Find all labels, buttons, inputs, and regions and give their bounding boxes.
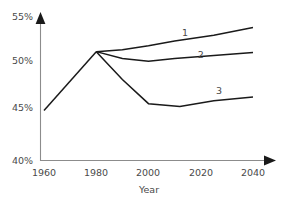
series-label-3: 3 xyxy=(216,85,222,96)
y-axis-arrow-icon xyxy=(36,12,46,24)
shared-history-line xyxy=(44,52,96,111)
ytick-label-50: 50% xyxy=(12,55,33,66)
xtick-label-2040: 2040 xyxy=(241,167,265,178)
ytick-label-55: 55% xyxy=(12,11,33,22)
chart-canvas: 55% 50% 45% 40% 1960 1980 2000 2020 2040… xyxy=(0,0,290,198)
xtick-label-2000: 2000 xyxy=(136,167,160,178)
xtick-label-1980: 1980 xyxy=(84,167,108,178)
series-label-2: 2 xyxy=(198,49,204,60)
x-axis-title: Year xyxy=(138,184,159,195)
x-axis-arrow-icon xyxy=(264,155,276,165)
xtick-label-1960: 1960 xyxy=(32,167,56,178)
series-line-3 xyxy=(96,52,253,107)
ytick-label-45: 45% xyxy=(12,102,33,113)
ytick-label-40: 40% xyxy=(12,155,33,166)
series-line-2 xyxy=(96,52,253,62)
series-line-1 xyxy=(96,28,253,52)
xtick-label-2020: 2020 xyxy=(189,167,213,178)
line-chart: 55% 50% 45% 40% 1960 1980 2000 2020 2040… xyxy=(0,0,290,198)
series-label-1: 1 xyxy=(182,27,188,38)
